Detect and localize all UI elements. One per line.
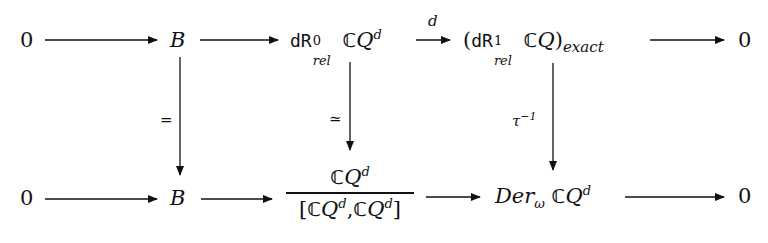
complex-C: ℂ xyxy=(330,166,344,188)
complex-C: ℂ xyxy=(342,29,356,51)
Q-var: Q xyxy=(356,28,373,52)
top-dR1-rel-CQ-exact: (dR1rel ℂQ)exact xyxy=(463,30,604,51)
label-d: d xyxy=(428,14,438,29)
complex-C: ℂ xyxy=(552,185,566,207)
label-tau-inverse: τ−1 xyxy=(512,114,537,129)
bottom-zero-left: 0 xyxy=(20,188,33,209)
open-paren: ( xyxy=(463,28,471,52)
omega-subscript: ω xyxy=(534,196,545,211)
Q-var: Q xyxy=(344,165,361,189)
bottom-Der-omega-CQd: Derω ℂQd xyxy=(495,186,591,207)
open-bracket: [ xyxy=(299,197,307,221)
dR-symbol: dR xyxy=(471,30,493,51)
close-paren: ) xyxy=(555,28,563,52)
exact-subscript: exact xyxy=(563,38,604,56)
Q-var: Q xyxy=(538,28,555,52)
Q-superscript: d xyxy=(385,196,393,211)
Q-var: Q xyxy=(367,197,384,221)
tau-superscript: −1 xyxy=(520,110,536,123)
close-bracket: ] xyxy=(393,197,401,221)
Q-superscript: d xyxy=(583,183,591,198)
fraction-denominator: [ℂQd,ℂQd] xyxy=(286,194,414,220)
complex-C: ℂ xyxy=(307,198,321,220)
bottom-B: B xyxy=(170,188,185,209)
Q-superscript: d xyxy=(374,27,382,42)
label-equals: = xyxy=(160,113,173,128)
bottom-zero-right: 0 xyxy=(738,186,751,207)
dR-symbol: dR xyxy=(290,30,312,51)
Q-superscript: d xyxy=(338,196,346,211)
Der-symbol: Der xyxy=(495,184,534,208)
complex-C: ℂ xyxy=(353,198,367,220)
Q-var: Q xyxy=(566,184,583,208)
Q-superscript: d xyxy=(361,164,369,179)
Q-var: Q xyxy=(321,197,338,221)
top-zero-right: 0 xyxy=(738,30,751,51)
top-zero-left: 0 xyxy=(20,30,33,51)
top-dR0-rel-CQd: dR0rel ℂQd xyxy=(290,30,382,51)
complex-C: ℂ xyxy=(524,29,538,51)
fraction-numerator: ℂQd xyxy=(286,167,414,192)
top-B: B xyxy=(170,30,185,51)
quotient-fraction: ℂQd [ℂQd,ℂQd] xyxy=(286,167,414,220)
label-isomorphic: ≃ xyxy=(329,112,342,127)
